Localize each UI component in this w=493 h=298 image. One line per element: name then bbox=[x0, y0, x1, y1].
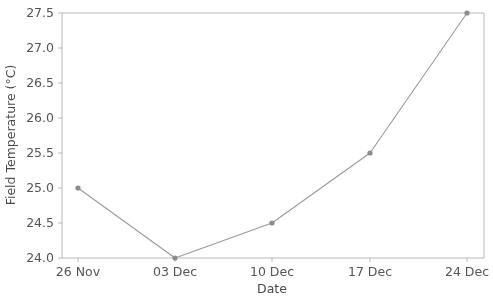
data-point-marker bbox=[172, 255, 177, 260]
data-point-marker bbox=[75, 185, 80, 190]
y-tick-label: 25.5 bbox=[26, 145, 54, 160]
y-tick-label: 26.0 bbox=[26, 110, 54, 125]
data-point-marker bbox=[464, 10, 469, 15]
x-tick-label: 26 Nov bbox=[56, 264, 101, 279]
y-tick-label: 24.0 bbox=[26, 250, 54, 265]
x-axis-title: Date bbox=[257, 281, 287, 296]
x-tick-label: 17 Dec bbox=[348, 264, 392, 279]
y-tick-label: 27.5 bbox=[26, 5, 54, 20]
data-point-marker bbox=[367, 150, 372, 155]
y-tick-label: 26.5 bbox=[26, 75, 54, 90]
y-axis-title: Field Temperature (°C) bbox=[3, 65, 18, 206]
x-tick-label: 03 Dec bbox=[153, 264, 197, 279]
data-point-marker bbox=[269, 220, 274, 225]
y-tick-label: 25.0 bbox=[26, 180, 54, 195]
line-chart: 24.0 24.5 25.0 25.5 26.0 26.5 27.0 27.5 … bbox=[0, 0, 493, 298]
x-tick-label: 10 Dec bbox=[250, 264, 294, 279]
x-tick-label: 24 Dec bbox=[445, 264, 489, 279]
y-tick-label: 27.0 bbox=[26, 40, 54, 55]
y-tick-label: 24.5 bbox=[26, 215, 54, 230]
chart-canvas: 24.0 24.5 25.0 25.5 26.0 26.5 27.0 27.5 … bbox=[0, 0, 493, 298]
chart-background bbox=[0, 0, 493, 298]
